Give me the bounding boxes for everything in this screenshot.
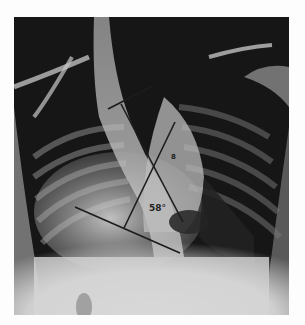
cobb-angle-label: 58°: [149, 204, 166, 213]
chest-xray-image: 8 58°: [14, 17, 289, 315]
vertebra-marker-label: 8: [171, 154, 176, 161]
xray-rendering: [14, 17, 289, 315]
